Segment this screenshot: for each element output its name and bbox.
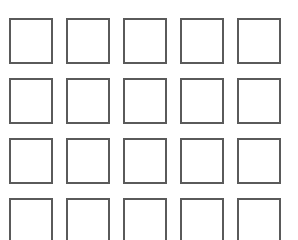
grid-cell-r3-c4: [180, 138, 224, 184]
grid-cell-r1-c5: [237, 18, 281, 64]
grid-cell-r2-c4: [180, 78, 224, 124]
grid-cell-r2-c5: [237, 78, 281, 124]
grid-cell-r2-c1: [9, 78, 53, 124]
grid-cell-r3-c2: [66, 138, 110, 184]
grid-cell-r4-c4: [180, 198, 224, 230]
grid-cell-r1-c3: [123, 18, 167, 64]
grid-cell-r1-c2: [66, 18, 110, 64]
grid-cell-r4-c5: [237, 198, 281, 230]
grid-cell-r4-c1: [9, 198, 53, 230]
grid-cell-r3-c5: [237, 138, 281, 184]
grid-cell-r3-c3: [123, 138, 167, 184]
grid-cell-r2-c2: [66, 78, 110, 124]
grid-cell-r1-c1: [9, 18, 53, 64]
square-grid: [9, 18, 281, 230]
grid-cell-r4-c3: [123, 198, 167, 230]
grid-cell-r4-c2: [66, 198, 110, 230]
grid-cell-r2-c3: [123, 78, 167, 124]
grid-cell-r1-c4: [180, 18, 224, 64]
grid-cell-r3-c1: [9, 138, 53, 184]
